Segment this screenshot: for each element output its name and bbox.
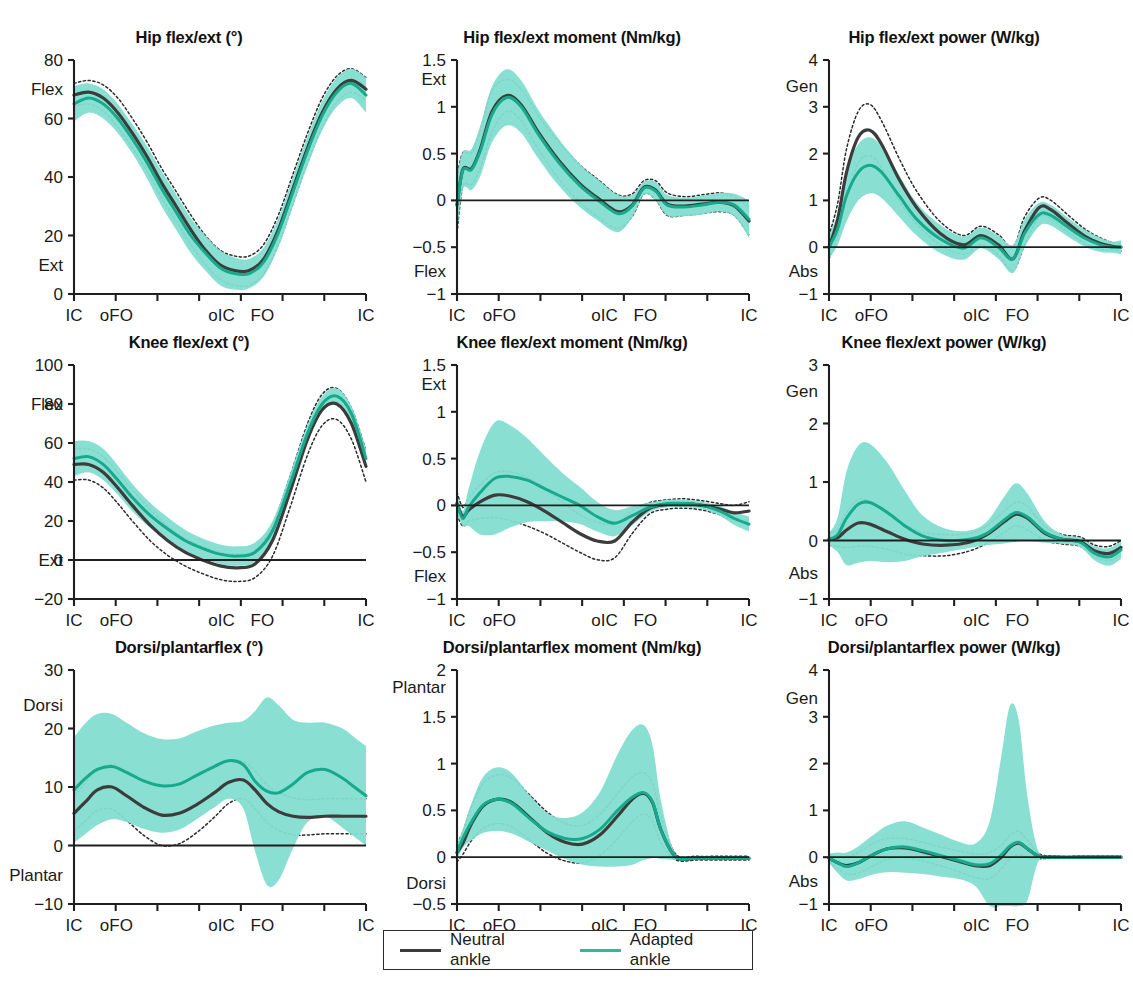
panel-title: Hip flex/ext (°) — [0, 28, 378, 47]
svg-text:oFO: oFO — [855, 306, 888, 325]
svg-text:IC: IC — [821, 611, 838, 630]
svg-text:Plantar: Plantar — [392, 678, 446, 697]
plot-area: −1−0.500.511.5ExtFlexICoFOoICFOIC — [383, 50, 761, 330]
svg-text:40: 40 — [44, 168, 63, 187]
svg-text:1: 1 — [809, 473, 818, 492]
svg-text:IC: IC — [821, 916, 838, 935]
svg-text:IC: IC — [1113, 916, 1130, 935]
svg-text:1: 1 — [809, 801, 818, 820]
svg-text:Gen: Gen — [786, 689, 818, 708]
svg-text:1.5: 1.5 — [422, 356, 446, 375]
panel-title: Hip flex/ext moment (Nm/kg) — [383, 28, 761, 47]
svg-text:0.5: 0.5 — [422, 450, 446, 469]
svg-text:Flex: Flex — [414, 262, 447, 281]
svg-text:1: 1 — [809, 191, 818, 210]
panel-dorsi-plantarflex-angle: Dorsi/plantarflex (°) −100102030DorsiPla… — [0, 630, 378, 940]
svg-text:1.5: 1.5 — [422, 51, 446, 70]
svg-text:Dorsi: Dorsi — [406, 874, 446, 893]
svg-text:0: 0 — [54, 285, 63, 304]
svg-text:oFO: oFO — [100, 306, 133, 325]
svg-text:0: 0 — [809, 532, 818, 551]
svg-text:Dorsi: Dorsi — [23, 696, 63, 715]
plot-area: −20020406080100FlexExtICoFOoICFOIC — [0, 355, 378, 635]
svg-text:2: 2 — [809, 145, 818, 164]
svg-text:Flex: Flex — [31, 80, 64, 99]
svg-text:oIC: oIC — [963, 611, 989, 630]
svg-text:FO: FO — [634, 611, 658, 630]
svg-text:40: 40 — [44, 473, 63, 492]
svg-text:−1: −1 — [427, 590, 446, 609]
svg-text:IC: IC — [66, 611, 83, 630]
svg-text:0: 0 — [809, 238, 818, 257]
plot-area: −101234GenAbsICoFOoICFOIC — [755, 660, 1133, 940]
svg-text:Flex: Flex — [31, 395, 64, 414]
svg-text:4: 4 — [809, 51, 818, 70]
svg-text:IC: IC — [358, 306, 375, 325]
svg-text:−0.5: −0.5 — [412, 543, 446, 562]
svg-text:1: 1 — [437, 98, 446, 117]
svg-text:IC: IC — [449, 306, 466, 325]
legend-swatch-adapted-line — [580, 949, 621, 952]
panel-dorsi-plantarflex-moment: Dorsi/plantarflex moment (Nm/kg) −0.500.… — [383, 630, 761, 940]
panel-title: Knee flex/ext (°) — [0, 333, 378, 352]
panel-title: Hip flex/ext power (W/kg) — [755, 28, 1133, 47]
svg-text:FO: FO — [251, 611, 275, 630]
svg-text:0.5: 0.5 — [422, 145, 446, 164]
panel-title: Knee flex/ext power (W/kg) — [755, 333, 1133, 352]
panel-hip-flex-ext-moment: Hip flex/ext moment (Nm/kg) −1−0.500.511… — [383, 20, 761, 330]
svg-text:0: 0 — [437, 191, 446, 210]
legend-entry-neutral-ankle: Neutral ankle — [384, 930, 564, 970]
panel-knee-flex-ext-moment: Knee flex/ext moment (Nm/kg) −1−0.500.51… — [383, 325, 761, 635]
panel-dorsi-plantarflex-power: Dorsi/plantarflex power (W/kg) −101234Ge… — [755, 630, 1133, 940]
svg-text:oFO: oFO — [100, 611, 133, 630]
svg-text:3: 3 — [809, 98, 818, 117]
svg-text:60: 60 — [44, 110, 63, 129]
panel-hip-flex-ext-power: Hip flex/ext power (W/kg) −101234GenAbsI… — [755, 20, 1133, 330]
plot-area: −1−0.500.511.5ExtFlexICoFOoICFOIC — [383, 355, 761, 635]
svg-text:20: 20 — [44, 227, 63, 246]
panel-hip-flex-ext-angle: Hip flex/ext (°) 020406080FlexExtICoFOoI… — [0, 20, 378, 330]
plot-area: 020406080FlexExtICoFOoICFOIC — [0, 50, 378, 330]
svg-text:Flex: Flex — [414, 567, 447, 586]
svg-text:FO: FO — [1006, 916, 1030, 935]
svg-text:oFO: oFO — [855, 916, 888, 935]
svg-text:3: 3 — [809, 708, 818, 727]
panel-title: Dorsi/plantarflex (°) — [0, 638, 378, 657]
svg-text:Ext: Ext — [38, 256, 63, 275]
svg-text:0: 0 — [809, 848, 818, 867]
svg-text:80: 80 — [44, 51, 63, 70]
svg-text:FO: FO — [1006, 611, 1030, 630]
svg-text:−1: −1 — [799, 285, 818, 304]
svg-text:IC: IC — [821, 306, 838, 325]
svg-text:FO: FO — [251, 306, 275, 325]
svg-text:10: 10 — [44, 778, 63, 797]
svg-text:oIC: oIC — [208, 306, 234, 325]
svg-text:60: 60 — [44, 434, 63, 453]
svg-text:−10: −10 — [34, 895, 63, 914]
legend-swatch-neutral-line — [400, 949, 441, 952]
svg-text:−0.5: −0.5 — [412, 895, 446, 914]
svg-text:Abs: Abs — [789, 262, 818, 281]
svg-text:−1: −1 — [427, 285, 446, 304]
panel-knee-flex-ext-angle: Knee flex/ext (°) −20020406080100FlexExt… — [0, 325, 378, 635]
svg-text:Ext: Ext — [421, 70, 446, 89]
svg-text:oIC: oIC — [963, 306, 989, 325]
panel-title: Knee flex/ext moment (Nm/kg) — [383, 333, 761, 352]
svg-text:−20: −20 — [34, 590, 63, 609]
svg-text:20: 20 — [44, 512, 63, 531]
svg-text:FO: FO — [251, 916, 275, 935]
svg-text:0: 0 — [54, 837, 63, 856]
svg-text:FO: FO — [1006, 306, 1030, 325]
svg-text:oFO: oFO — [100, 916, 133, 935]
svg-text:IC: IC — [1113, 611, 1130, 630]
svg-text:IC: IC — [66, 306, 83, 325]
panel-title: Dorsi/plantarflex power (W/kg) — [755, 638, 1133, 657]
svg-text:IC: IC — [449, 611, 466, 630]
svg-text:−1: −1 — [799, 590, 818, 609]
plot-area: −0.500.511.52PlantarDorsiICoFOoICFOIC — [383, 660, 761, 940]
svg-text:Plantar: Plantar — [9, 866, 63, 885]
svg-text:oFO: oFO — [855, 611, 888, 630]
svg-text:FO: FO — [634, 306, 658, 325]
svg-text:1: 1 — [437, 403, 446, 422]
svg-text:2: 2 — [809, 755, 818, 774]
